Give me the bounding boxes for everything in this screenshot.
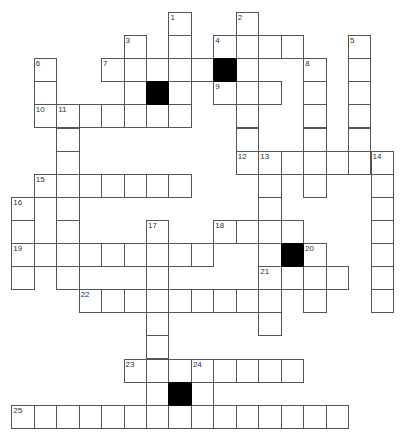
crossword-cell[interactable] [191, 382, 214, 406]
crossword-cell[interactable] [258, 289, 281, 313]
crossword-cell[interactable] [258, 35, 281, 59]
crossword-cell[interactable] [124, 243, 147, 267]
crossword-cell[interactable] [168, 174, 191, 198]
crossword-cell[interactable] [303, 174, 326, 198]
crossword-cell[interactable] [281, 220, 304, 244]
crossword-cell[interactable] [191, 243, 214, 267]
crossword-cell[interactable] [191, 289, 214, 313]
crossword-cell[interactable] [303, 104, 326, 128]
crossword-cell[interactable]: 6 [34, 58, 57, 82]
crossword-cell[interactable]: 5 [348, 35, 371, 59]
crossword-cell[interactable] [281, 359, 304, 383]
crossword-cell[interactable] [281, 266, 304, 290]
crossword-cell[interactable] [124, 58, 147, 82]
crossword-cell[interactable] [236, 289, 259, 313]
crossword-cell[interactable]: 19 [11, 243, 34, 267]
crossword-cell[interactable]: 14 [371, 151, 394, 175]
crossword-cell[interactable]: 15 [34, 174, 57, 198]
crossword-cell[interactable] [371, 243, 394, 267]
crossword-cell[interactable] [79, 243, 102, 267]
crossword-cell[interactable] [303, 151, 326, 175]
crossword-cell[interactable] [348, 81, 371, 105]
crossword-cell[interactable] [371, 289, 394, 313]
crossword-cell[interactable] [168, 58, 191, 82]
crossword-cell[interactable]: 12 [236, 151, 259, 175]
crossword-cell[interactable] [56, 220, 79, 244]
crossword-cell[interactable] [258, 81, 281, 105]
crossword-cell[interactable] [168, 359, 191, 383]
crossword-cell[interactable] [258, 220, 281, 244]
crossword-cell[interactable] [56, 174, 79, 198]
crossword-cell[interactable] [213, 405, 236, 429]
crossword-cell[interactable] [146, 174, 169, 198]
crossword-cell[interactable]: 8 [303, 58, 326, 82]
crossword-cell[interactable] [281, 151, 304, 175]
crossword-cell[interactable]: 20 [303, 243, 326, 267]
crossword-cell[interactable] [34, 405, 57, 429]
crossword-cell[interactable] [79, 174, 102, 198]
crossword-cell[interactable] [168, 289, 191, 313]
crossword-cell[interactable]: 2 [236, 12, 259, 36]
crossword-cell[interactable] [124, 81, 147, 105]
crossword-cell[interactable] [258, 243, 281, 267]
crossword-cell[interactable]: 25 [11, 405, 34, 429]
crossword-cell[interactable] [146, 382, 169, 406]
crossword-cell[interactable] [348, 104, 371, 128]
crossword-cell[interactable] [348, 151, 371, 175]
crossword-cell[interactable]: 10 [34, 104, 57, 128]
crossword-cell[interactable] [213, 359, 236, 383]
crossword-cell[interactable] [371, 266, 394, 290]
crossword-cell[interactable]: 1 [168, 12, 191, 36]
crossword-cell[interactable] [236, 220, 259, 244]
crossword-cell[interactable] [56, 151, 79, 175]
crossword-cell[interactable] [258, 359, 281, 383]
crossword-cell[interactable] [303, 81, 326, 105]
crossword-cell[interactable] [281, 405, 304, 429]
crossword-cell[interactable] [146, 289, 169, 313]
crossword-cell[interactable]: 23 [124, 359, 147, 383]
crossword-cell[interactable]: 3 [124, 35, 147, 59]
crossword-cell[interactable] [56, 197, 79, 221]
crossword-cell[interactable] [146, 243, 169, 267]
crossword-cell[interactable] [168, 35, 191, 59]
crossword-cell[interactable] [34, 243, 57, 267]
crossword-cell[interactable] [348, 128, 371, 152]
crossword-cell[interactable]: 16 [11, 197, 34, 221]
crossword-cell[interactable] [11, 266, 34, 290]
crossword-cell[interactable] [146, 58, 169, 82]
crossword-cell[interactable] [191, 58, 214, 82]
crossword-cell[interactable] [236, 359, 259, 383]
crossword-cell[interactable] [258, 174, 281, 198]
crossword-cell[interactable] [236, 128, 259, 152]
crossword-cell[interactable] [236, 405, 259, 429]
crossword-cell[interactable] [101, 104, 124, 128]
crossword-cell[interactable] [168, 104, 191, 128]
crossword-cell[interactable] [236, 104, 259, 128]
crossword-cell[interactable]: 22 [79, 289, 102, 313]
crossword-cell[interactable] [34, 81, 57, 105]
crossword-cell[interactable] [124, 405, 147, 429]
crossword-cell[interactable] [124, 104, 147, 128]
crossword-cell[interactable] [236, 58, 259, 82]
crossword-cell[interactable] [236, 35, 259, 59]
crossword-cell[interactable] [56, 266, 79, 290]
crossword-cell[interactable] [56, 405, 79, 429]
crossword-cell[interactable] [258, 197, 281, 221]
crossword-cell[interactable]: 17 [146, 220, 169, 244]
crossword-cell[interactable] [101, 405, 124, 429]
crossword-cell[interactable] [146, 266, 169, 290]
crossword-cell[interactable] [146, 359, 169, 383]
crossword-cell[interactable] [168, 405, 191, 429]
crossword-cell[interactable] [258, 312, 281, 336]
crossword-cell[interactable] [348, 58, 371, 82]
crossword-cell[interactable] [303, 128, 326, 152]
crossword-cell[interactable] [303, 266, 326, 290]
crossword-cell[interactable] [303, 289, 326, 313]
crossword-cell[interactable] [168, 243, 191, 267]
crossword-cell[interactable] [124, 289, 147, 313]
crossword-cell[interactable]: 9 [213, 81, 236, 105]
crossword-cell[interactable] [11, 220, 34, 244]
crossword-cell[interactable] [79, 104, 102, 128]
crossword-cell[interactable] [146, 104, 169, 128]
crossword-cell[interactable] [101, 174, 124, 198]
